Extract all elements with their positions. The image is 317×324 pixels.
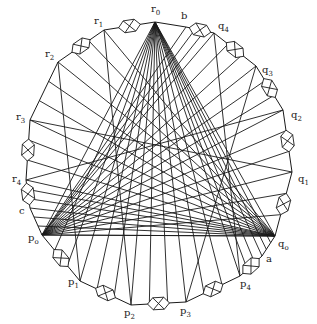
- fan-line-r0: [155, 22, 255, 263]
- vertex-label-q0: qo: [278, 238, 289, 252]
- vertex-label-r0: r0: [151, 3, 160, 17]
- label-subscript: 2: [130, 313, 134, 321]
- label-base: a: [266, 253, 272, 264]
- fan-line-r0: [149, 22, 155, 304]
- label-subscript: 1: [74, 282, 78, 290]
- vertex-label-a: a: [266, 253, 272, 264]
- vertex-label-c: c: [19, 205, 25, 216]
- fan-line-p0: [42, 215, 281, 235]
- label-subscript: 2: [50, 54, 54, 62]
- vertex-label-q4: q4: [218, 20, 229, 34]
- fan-line-r0: [155, 22, 240, 276]
- label-subscript: 4: [17, 179, 22, 187]
- label-subscript: 3: [21, 117, 25, 125]
- vertex-label-p0: po: [28, 232, 39, 246]
- fan-line-q0: [42, 235, 275, 236]
- vertex-label-r1: r1: [94, 15, 103, 29]
- fan-line-q0: [34, 217, 275, 236]
- vertex-label-p2: p2: [124, 307, 135, 321]
- vertex-label-p3: p3: [180, 305, 191, 319]
- vertex-label-r2: r2: [45, 48, 54, 62]
- vertex-label-q1: q1: [298, 173, 309, 187]
- label-subscript: 3: [268, 70, 272, 78]
- label-subscript: 0: [156, 9, 160, 17]
- label-subscript: 4: [224, 26, 229, 34]
- vertex-label-p4: p4: [240, 278, 251, 292]
- line-arrangement-diagram: r0bq4q3q2q1qoap4p3p2p1pocr4r3r2r1: [0, 0, 317, 324]
- chord: [26, 110, 283, 180]
- label-subscript: 3: [186, 311, 190, 319]
- vertex-label-b: b: [181, 10, 187, 21]
- fan-line-r0: [114, 22, 155, 297]
- vertex-label-r4: r4: [12, 173, 22, 187]
- label-base: c: [19, 205, 25, 216]
- label-base: b: [181, 10, 187, 21]
- label-subscript: o: [34, 238, 38, 246]
- vertex-label-r3: r3: [16, 111, 25, 125]
- label-subscript: 4: [246, 284, 251, 292]
- vertex-label-q2: q2: [291, 109, 302, 123]
- label-subscript: o: [284, 244, 288, 252]
- label-subscript: 2: [297, 115, 301, 123]
- label-subscript: 1: [304, 179, 308, 187]
- vertex-label-q3: q3: [262, 64, 273, 78]
- chord: [214, 33, 240, 276]
- label-subscript: 1: [99, 21, 103, 29]
